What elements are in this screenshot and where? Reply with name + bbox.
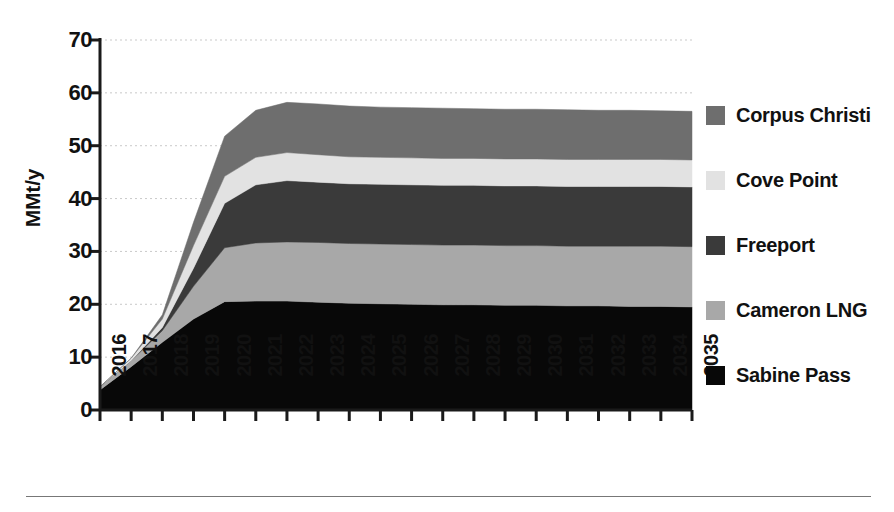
x-tick-label-2032: 2032: [607, 334, 630, 424]
legend-item-freeport[interactable]: Freeport: [706, 234, 894, 256]
x-tick-label-2016: 2016: [108, 334, 131, 424]
chart-legend: Corpus ChristiCove PointFreeportCameron …: [706, 104, 894, 386]
legend-item-label: Sabine Pass: [736, 364, 851, 387]
x-tick-label-2033: 2033: [638, 334, 661, 424]
x-tick-label-2021: 2021: [264, 334, 287, 424]
x-tick-label-2023: 2023: [326, 334, 349, 424]
legend-swatch-icon: [706, 301, 725, 320]
chart-plot-area: 706050403020100 201620172018201920202021…: [0, 0, 720, 470]
legend-item-corpus-christi[interactable]: Corpus Christi: [706, 104, 894, 126]
x-axis-tick-labels: 2016201720182019202020212022202320242025…: [0, 0, 720, 470]
legend-item-label: Cove Point: [736, 169, 837, 192]
x-tick-label-2019: 2019: [201, 334, 224, 424]
x-tick-label-2028: 2028: [482, 334, 505, 424]
x-tick-label-2026: 2026: [420, 334, 443, 424]
x-tick-label-2034: 2034: [669, 334, 692, 424]
legend-item-sabine-pass[interactable]: Sabine Pass: [706, 364, 894, 386]
x-tick-label-2029: 2029: [513, 334, 536, 424]
x-tick-label-2027: 2027: [451, 334, 474, 424]
bottom-divider-rule: [26, 496, 871, 497]
x-tick-label-2030: 2030: [544, 334, 567, 424]
legend-item-label: Cameron LNG: [736, 299, 867, 322]
x-tick-label-2018: 2018: [170, 334, 193, 424]
legend-swatch-icon: [706, 366, 725, 385]
legend-swatch-icon: [706, 106, 725, 125]
legend-item-cove-point[interactable]: Cove Point: [706, 169, 894, 191]
x-tick-label-2024: 2024: [357, 334, 380, 424]
x-tick-label-2025: 2025: [388, 334, 411, 424]
x-tick-label-2017: 2017: [139, 334, 162, 424]
legend-item-label: Freeport: [736, 234, 815, 257]
y-axis-title: MMt/y: [21, 143, 45, 253]
legend-item-label: Corpus Christi: [736, 104, 871, 127]
x-tick-label-2031: 2031: [575, 334, 598, 424]
figure-container: 706050403020100 201620172018201920202021…: [0, 0, 894, 512]
legend-item-cameron-lng[interactable]: Cameron LNG: [706, 299, 894, 321]
legend-swatch-icon: [706, 171, 725, 190]
legend-swatch-icon: [706, 236, 725, 255]
x-tick-label-2020: 2020: [233, 334, 256, 424]
x-tick-label-2022: 2022: [295, 334, 318, 424]
